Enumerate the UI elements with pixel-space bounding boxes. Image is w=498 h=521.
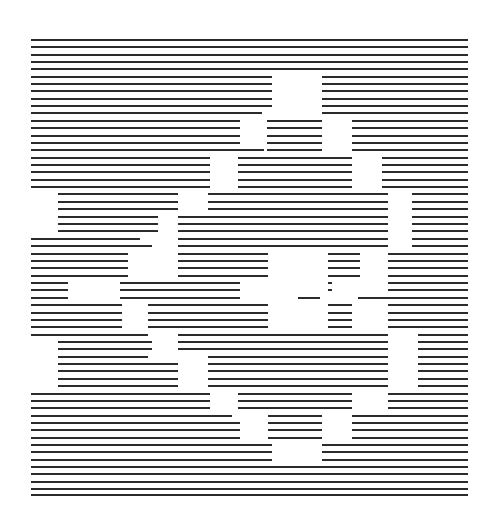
line-field-svg bbox=[0, 0, 498, 521]
artwork-canvas bbox=[0, 0, 498, 521]
